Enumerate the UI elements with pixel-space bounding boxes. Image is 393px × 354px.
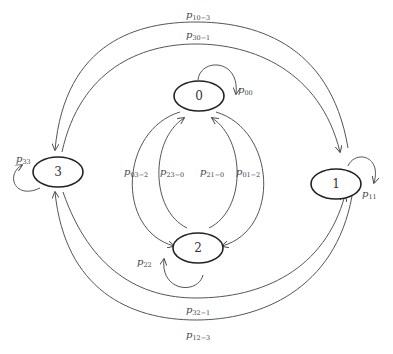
node-2-label: 2 [194,241,202,255]
node-1-label: 1 [332,177,340,191]
edge-label-p03-2: p03−2 [124,166,148,179]
edge-label-p33: p33 [16,153,31,166]
state-transition-diagram: 0 3 1 2 p10−3 p30−1 p00 p33 p11 p03−2 p2… [0,0,393,354]
node-3: 3 [33,157,83,187]
node-0-label: 0 [195,89,203,103]
edge-label-p12-3: p12−3 [186,329,210,342]
edge-label-p10-3: p10−3 [186,9,210,22]
node-3-label: 3 [54,165,62,179]
edge-label-p21-0: p21−0 [200,166,224,179]
edge-0-to-2-right-outer [216,112,264,246]
edge-label-p22: p22 [137,256,152,269]
edge-label-p01-2: p01−2 [236,166,260,179]
node-0: 0 [174,81,224,111]
node-2: 2 [173,233,223,263]
edge-label-p11: p11 [362,188,377,201]
node-1: 1 [311,169,361,199]
edge-0-to-2-left-outer [132,112,180,246]
edge-label-p32-1: p32−1 [186,304,210,317]
edge-label-p23-0: p23−0 [160,166,184,179]
edge-label-p00: p00 [238,84,253,97]
edge-label-p30-1: p30−1 [186,29,210,42]
